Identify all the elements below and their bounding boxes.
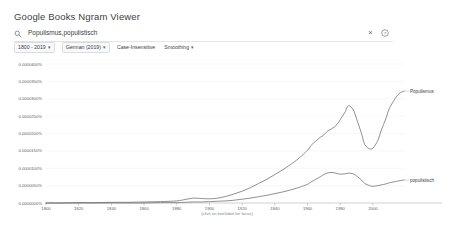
chart-toolbar: 1800 - 2019 ▾ German (2019) ▾ Case-Insen… [14, 42, 203, 52]
chart-xaxis: 1800182018401860188019001920194019601980… [41, 203, 442, 211]
chart-series[interactable] [46, 91, 404, 203]
y-axis-tick-label: 0.0000150% [18, 148, 42, 153]
series-line-populismus[interactable] [46, 91, 404, 203]
series-label-populismus[interactable]: Populismus [410, 89, 434, 94]
chevron-down-icon: ▾ [191, 45, 194, 50]
y-axis-tick-label: 0.0000400% [18, 62, 42, 67]
chart-svg: 0.0000000%0.0000050%0.0000100%0.0000150%… [0, 58, 454, 218]
case-insensitive-label: Case-Insensitive [117, 44, 155, 50]
date-range-selector[interactable]: 1800 - 2019 ▾ [14, 42, 55, 53]
y-axis-tick-label: 0.0000100% [18, 166, 42, 171]
corpus-label: German (2019) [66, 44, 101, 50]
chevron-down-icon: ▾ [48, 45, 51, 50]
chart-gridlines [46, 64, 404, 186]
corpus-selector[interactable]: German (2019) ▾ [62, 42, 110, 53]
smoothing-label: Smoothing [164, 44, 189, 50]
case-insensitive-toggle[interactable]: Case-Insensitive [117, 43, 155, 52]
chevron-down-icon: ▾ [103, 45, 106, 50]
date-range-label: 1800 - 2019 [18, 44, 46, 50]
page-title: Google Books Ngram Viewer [14, 11, 140, 22]
y-axis-tick-label: 0.0000300% [18, 96, 42, 101]
y-axis-tick-label: 0.0000200% [18, 131, 42, 136]
y-axis-tick-label: 0.0000350% [18, 79, 42, 84]
y-axis-tick-label: 0.0000250% [18, 114, 42, 119]
search-bar: × ? [14, 27, 393, 40]
series-line-populistisch[interactable] [46, 172, 404, 203]
chart-caption: (click on line/label for focus) [0, 211, 454, 216]
series-label-populistisch[interactable]: populistisch [410, 178, 434, 183]
search-icon [14, 30, 22, 38]
clear-search-button[interactable]: × [366, 28, 375, 37]
search-input[interactable] [28, 27, 348, 39]
svg-text:?: ? [384, 30, 387, 35]
chart-series-labels[interactable]: Populismuspopulistisch [404, 89, 434, 183]
help-circle-icon[interactable]: ? [381, 29, 389, 37]
ngram-chart[interactable]: 0.0000000%0.0000050%0.0000100%0.0000150%… [0, 58, 454, 218]
ngram-viewer-page: Google Books Ngram Viewer × ? 1800 - 201… [0, 0, 454, 230]
chart-yaxis-labels: 0.0000000%0.0000050%0.0000100%0.0000150%… [18, 62, 42, 206]
y-axis-tick-label: 0.0000000% [18, 201, 42, 206]
y-axis-tick-label: 0.0000050% [18, 183, 42, 188]
smoothing-selector[interactable]: Smoothing ▾ [164, 43, 194, 52]
